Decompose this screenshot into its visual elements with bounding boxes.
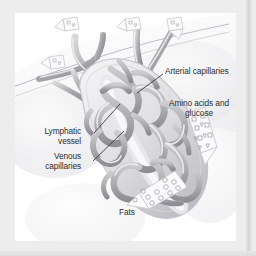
label-arterial-capillaries: Arterial capillaries <box>165 66 228 76</box>
frame-bottom-shadow <box>0 251 256 256</box>
label-venous-line1: Venous <box>21 151 81 161</box>
label-lymphatic-line2: vessel <box>21 136 81 146</box>
label-amino-acids-line1: Amino acids and <box>165 98 233 108</box>
frame-right-shadow <box>246 0 252 256</box>
label-venous-capillaries: Venous capillaries <box>21 151 81 171</box>
label-lymphatic-line1: Lymphatic <box>21 126 81 136</box>
label-amino-acids-and-glucose: Amino acids and glucose <box>165 98 233 118</box>
illustration-root: Arterial capillaries Amino acids and glu… <box>0 0 256 256</box>
label-venous-line2: capillaries <box>21 161 81 171</box>
label-fats: Fats <box>119 207 135 217</box>
illustration-plate: Arterial capillaries Amino acids and glu… <box>15 13 236 241</box>
label-lymphatic-vessel: Lymphatic vessel <box>21 126 81 146</box>
label-amino-acids-line2: glucose <box>165 108 233 118</box>
